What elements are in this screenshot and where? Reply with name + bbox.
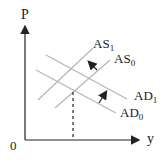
ad-shift-arrow-icon: [99, 92, 106, 103]
as-ad-diagram: P y 0 AS1 AS0 AD1 AD0: [0, 0, 167, 162]
as0-label: AS0: [114, 51, 136, 68]
as-shift-arrow-icon: [89, 62, 97, 70]
ad0-label: AD0: [120, 105, 144, 122]
y-axis-label: P: [21, 7, 29, 22]
x-axis-label: y: [147, 131, 154, 146]
ad1-label: AD1: [134, 88, 157, 105]
ad0-curve: [36, 70, 116, 113]
as1-label: AS1: [93, 36, 114, 53]
origin-label: 0: [10, 138, 17, 153]
